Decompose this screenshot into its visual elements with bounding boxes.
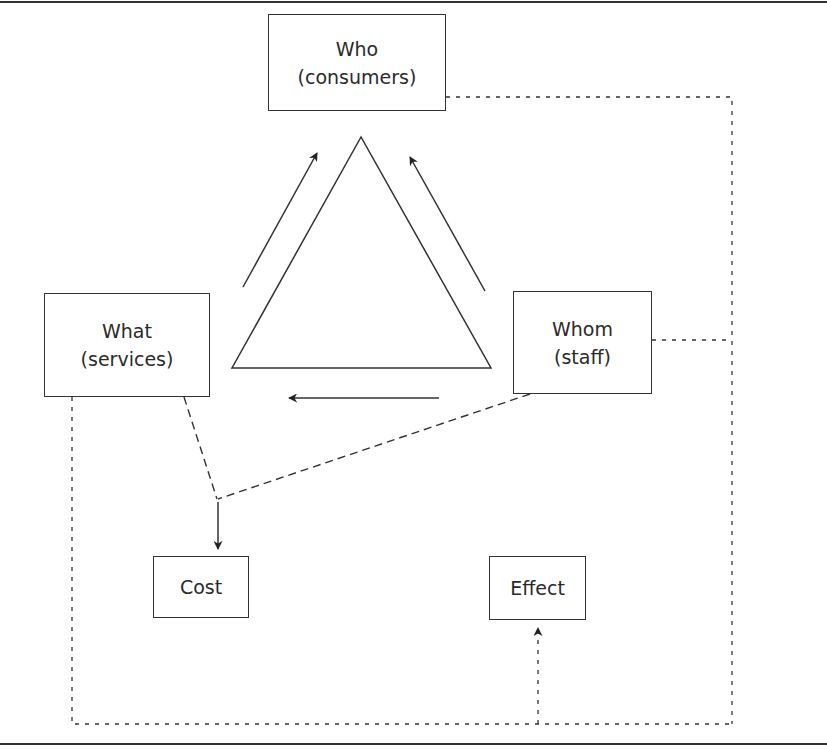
node-whom: Whom (staff) [513, 291, 652, 394]
arrow-whom-to-who [410, 157, 485, 291]
node-whom-subtitle: (staff) [554, 343, 611, 371]
node-who-subtitle: (consumers) [298, 63, 417, 91]
node-effect-title: Effect [510, 574, 565, 602]
node-who-title: Who [336, 35, 378, 63]
center-triangle [232, 137, 491, 368]
node-cost: Cost [153, 556, 249, 618]
node-effect: Effect [489, 556, 586, 620]
node-what-subtitle: (services) [81, 345, 174, 373]
arrow-what-to-who [243, 153, 317, 287]
node-whom-title: Whom [552, 315, 613, 343]
dotted-who-to-right [446, 97, 732, 724]
dashed-whom-to-junction [218, 394, 530, 499]
dashed-what-to-junction [184, 397, 217, 499]
node-who: Who (consumers) [268, 14, 446, 111]
node-what-title: What [102, 317, 152, 345]
node-what: What (services) [44, 293, 210, 397]
node-cost-title: Cost [180, 573, 222, 601]
